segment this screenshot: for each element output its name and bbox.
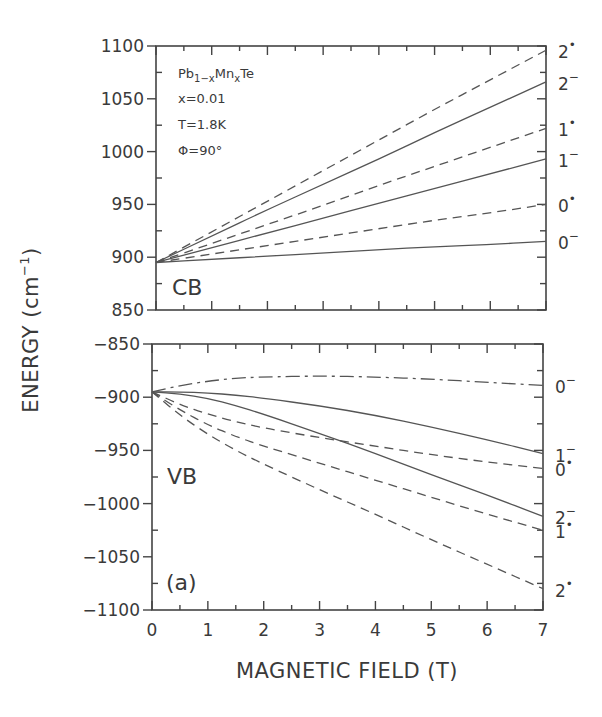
- compound-formula: Pb1−xMnxTe: [178, 66, 254, 84]
- y-tick-label: −950: [93, 440, 140, 460]
- level-label: 2−: [558, 70, 579, 94]
- x-tick-label: 6: [482, 620, 493, 640]
- cb-level-labels: 2•2−1•1−0•0−: [558, 38, 579, 253]
- level-label: 1•: [555, 518, 573, 542]
- level-label: 1•: [558, 116, 576, 140]
- composition-value: x=0.01: [178, 91, 226, 106]
- series-line-0minus: [152, 376, 543, 392]
- level-label: 0•: [555, 456, 573, 480]
- series-line-1minus: [156, 159, 546, 262]
- cb-panel-label: CB: [172, 275, 202, 300]
- level-label: 1−: [558, 147, 579, 171]
- y-tick-label: −1100: [82, 600, 140, 620]
- y-tick-label: −850: [93, 334, 140, 354]
- y-tick-label: 1100: [101, 36, 144, 56]
- vb-level-labels: 0−1−0•2−1•2•: [555, 373, 576, 600]
- series-line-2minus: [156, 82, 546, 263]
- series-line-1minus: [152, 392, 543, 454]
- x-tick-label: 2: [258, 620, 269, 640]
- level-label: 0•: [558, 192, 576, 216]
- cb-x-ticks: [156, 46, 546, 310]
- y-tick-label: −1000: [82, 494, 140, 514]
- level-label: 0−: [558, 229, 579, 253]
- x-tick-label: 5: [426, 620, 437, 640]
- x-tick-label: 4: [370, 620, 381, 640]
- figure: 850900950100010501100 2•2−1•1−0•0− CB Pb…: [0, 0, 602, 717]
- angle-value: Φ=90°: [178, 143, 222, 158]
- cb-y-ticks: 850900950100010501100: [101, 36, 546, 320]
- series-line-0plus: [156, 204, 546, 262]
- y-tick-label: 1050: [101, 89, 144, 109]
- x-tick-label: 0: [147, 620, 158, 640]
- x-tick-label: 1: [202, 620, 213, 640]
- vb-x-ticks: 01234567: [147, 344, 549, 640]
- x-tick-label: 7: [538, 620, 549, 640]
- level-label: 2•: [555, 577, 573, 601]
- series-line-0minus: [156, 241, 546, 262]
- y-tick-label: 950: [112, 194, 144, 214]
- series-line-0plus: [152, 392, 543, 469]
- vb-panel: −1100−1050−1000−950−900−850 01234567 0−1…: [82, 334, 575, 640]
- level-label: 0−: [555, 373, 576, 397]
- cb-plot-frame: [156, 46, 546, 310]
- cb-annotation: Pb1−xMnxTe x=0.01 T=1.8K Φ=90°: [177, 66, 254, 158]
- y-tick-label: −1050: [82, 547, 140, 567]
- y-tick-label: −900: [93, 387, 140, 407]
- series-line-2plus: [152, 392, 543, 589]
- vb-series: [152, 376, 543, 589]
- y-tick-label: 850: [112, 300, 144, 320]
- x-tick-label: 3: [314, 620, 325, 640]
- y-axis-title-text: ENERGY (cm−1): [17, 247, 43, 413]
- vb-panel-label: VB: [167, 464, 197, 489]
- y-axis-title: ENERGY (cm−1): [17, 247, 43, 413]
- figure-tag: (a): [166, 570, 197, 595]
- x-axis-title: MAGNETIC FIELD (T): [236, 659, 458, 683]
- y-tick-label: 1000: [101, 142, 144, 162]
- cb-panel: 850900950100010501100 2•2−1•1−0•0− CB Pb…: [101, 36, 579, 320]
- series-line-1plus: [152, 392, 543, 530]
- y-tick-label: 900: [112, 247, 144, 267]
- chart-canvas: 850900950100010501100 2•2−1•1−0•0− CB Pb…: [0, 0, 602, 717]
- temperature-value: T=1.8K: [177, 117, 227, 132]
- level-label: 2•: [558, 38, 576, 62]
- vb-plot-frame: [152, 344, 543, 610]
